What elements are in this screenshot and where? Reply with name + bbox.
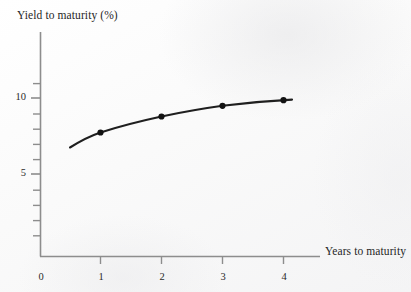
x-tick-label-2: 2 bbox=[152, 271, 172, 282]
figure-canvas: Yield to maturity (%) Years to maturity … bbox=[0, 0, 411, 292]
data-point bbox=[280, 97, 286, 103]
y-axis-ticks bbox=[31, 84, 41, 236]
yield-curve-line bbox=[70, 100, 292, 148]
x-tick-label-1: 1 bbox=[91, 271, 111, 282]
data-point bbox=[158, 113, 164, 119]
x-axis-title: Years to maturity bbox=[325, 245, 406, 257]
x-tick-label-4: 4 bbox=[274, 271, 294, 282]
x-tick-label-3: 3 bbox=[213, 271, 233, 282]
y-tick-label-10: 10 bbox=[4, 91, 26, 102]
x-tick-label-0: 0 bbox=[31, 271, 51, 282]
data-point bbox=[219, 103, 225, 109]
y-axis-title: Yield to maturity (%) bbox=[17, 9, 118, 21]
y-tick-label-5: 5 bbox=[4, 167, 26, 178]
x-axis-ticks bbox=[101, 257, 284, 265]
data-point bbox=[97, 129, 103, 135]
